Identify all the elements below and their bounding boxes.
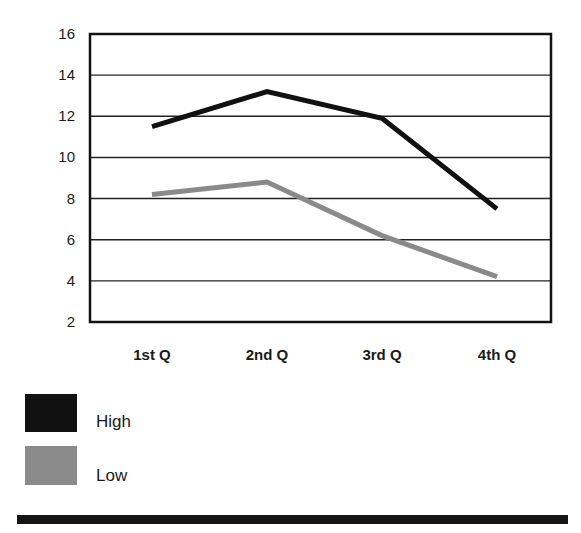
y-tick-label: 16 [58, 25, 75, 42]
bottom-divider-rule [17, 515, 568, 524]
y-tick-label: 4 [67, 272, 75, 289]
y-tick-label: 10 [58, 148, 75, 165]
series-line-low [152, 182, 497, 277]
y-tick-label: 6 [67, 231, 75, 248]
legend-item-low: Low [25, 446, 325, 486]
legend-item-high: High [25, 394, 325, 434]
x-tick-label: 4th Q [478, 346, 517, 363]
legend-label-high: High [96, 412, 131, 432]
legend-swatch-low [25, 446, 77, 485]
y-tick-label: 8 [67, 190, 75, 207]
y-axis-ticks: 246810121416 [58, 25, 75, 330]
x-axis-ticks: 1st Q2nd Q3rd Q4th Q [133, 346, 516, 363]
y-tick-label: 2 [67, 313, 75, 330]
y-tick-label: 14 [58, 66, 75, 83]
legend-label-low: Low [96, 466, 127, 486]
x-tick-label: 3rd Q [362, 346, 402, 363]
y-tick-label: 12 [58, 107, 75, 124]
legend-swatch-high [25, 394, 77, 432]
x-tick-label: 2nd Q [246, 346, 289, 363]
plot-frame [90, 34, 551, 322]
x-tick-label: 1st Q [133, 346, 171, 363]
series-lines [152, 92, 497, 277]
